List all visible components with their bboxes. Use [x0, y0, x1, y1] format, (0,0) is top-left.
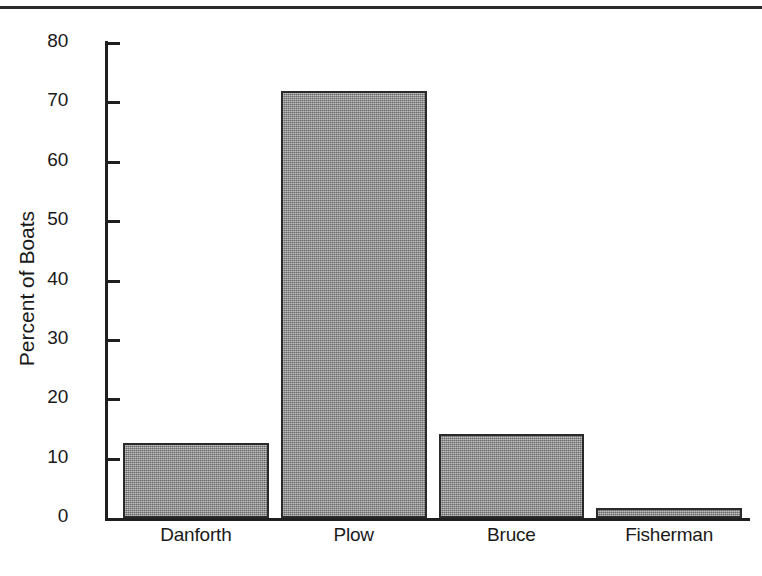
y-axis-tick: 50	[0, 220, 120, 223]
y-axis-tick: 30	[0, 339, 120, 342]
bar	[596, 508, 742, 518]
y-axis-tick: 0	[0, 517, 120, 520]
y-axis-tick-label: 0	[24, 506, 68, 525]
y-axis-tick-label: 70	[24, 90, 68, 109]
y-axis-tick-label: 10	[24, 447, 68, 466]
bar	[123, 443, 269, 518]
y-axis-tick: 70	[0, 101, 120, 104]
y-axis-tick-label: 20	[24, 387, 68, 406]
y-axis-tick-mark	[105, 339, 120, 342]
y-axis-tick-label: 60	[24, 150, 68, 169]
x-axis-line	[105, 518, 750, 521]
y-axis-tick-label: 80	[24, 31, 68, 50]
x-axis-tick-label: Fisherman	[596, 524, 742, 546]
y-axis-tick-label: 50	[24, 209, 68, 228]
bar	[281, 91, 427, 519]
x-axis-tick-label: Danforth	[123, 524, 269, 546]
y-axis-tick: 20	[0, 398, 120, 401]
y-axis-tick-mark	[105, 42, 120, 45]
y-axis-tick: 80	[0, 42, 120, 45]
bar	[439, 434, 585, 518]
y-axis-tick-mark	[105, 161, 120, 164]
y-axis-tick-mark	[105, 280, 120, 283]
y-axis-tick: 60	[0, 161, 120, 164]
x-axis-tick-label: Plow	[281, 524, 427, 546]
y-axis-tick-mark	[105, 220, 120, 223]
y-axis-tick-label: 30	[24, 328, 68, 347]
y-axis-tick: 40	[0, 280, 120, 283]
y-axis-tick-mark	[105, 458, 120, 461]
bar-chart-figure: Percent of Boats 01020304050607080 Danfo…	[0, 0, 762, 576]
y-axis-tick-label: 40	[24, 269, 68, 288]
x-axis-tick-label: Bruce	[439, 524, 585, 546]
y-axis-tick-mark	[105, 101, 120, 104]
y-axis-tick-mark	[105, 398, 120, 401]
y-axis-tick: 10	[0, 458, 120, 461]
